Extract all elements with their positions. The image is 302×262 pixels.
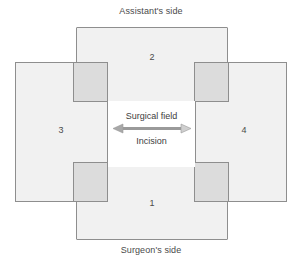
drape-overlap-bottom-left <box>73 162 108 202</box>
drape-overlap-bottom-right <box>194 162 229 202</box>
drape-number-3: 3 <box>51 125 71 135</box>
incision-text: Incision <box>108 135 195 147</box>
incision-double-arrow-icon <box>113 123 191 134</box>
drape-number-4: 4 <box>234 125 254 135</box>
surgeon-side-label: Surgeon's side <box>0 245 302 255</box>
drape-number-1: 1 <box>142 198 162 208</box>
drape-diagram: SSISTING OF Assistant's side 1 2 3 4 Sur… <box>0 0 302 262</box>
drape-number-2: 2 <box>142 52 162 62</box>
drape-overlap-top-right <box>194 62 229 102</box>
surgical-field-annotation: Surgical field Incision <box>108 110 195 147</box>
drape-overlap-top-left <box>73 62 108 102</box>
assistant-side-label: Assistant's side <box>0 6 302 16</box>
surgical-field-text: Surgical field <box>108 110 195 122</box>
